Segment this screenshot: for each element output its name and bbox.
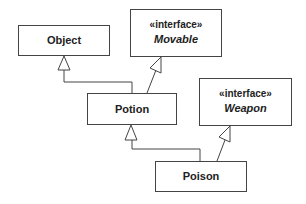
stereotype-label: «interface» xyxy=(219,88,272,100)
class-poison: Poison xyxy=(155,161,247,192)
class-potion: Potion xyxy=(87,93,177,125)
class-name: Potion xyxy=(115,103,149,116)
edge-poison-potion xyxy=(132,140,200,161)
arrowhead-potion xyxy=(125,125,137,140)
stereotype-label: «interface» xyxy=(150,19,203,31)
arrowhead-movable xyxy=(150,57,161,73)
interface-name: Movable xyxy=(154,31,198,47)
class-name: Object xyxy=(47,34,81,47)
class-object: Object xyxy=(18,25,110,56)
edge-potion-object xyxy=(64,70,132,93)
class-name: Poison xyxy=(183,170,220,183)
interface-name: Weapon xyxy=(224,100,267,116)
interface-weapon: «interface» Weapon xyxy=(199,78,292,126)
edge-potion-movable xyxy=(147,70,156,93)
arrowhead-weapon xyxy=(219,126,230,142)
edge-poison-weapon xyxy=(217,140,225,161)
arrowhead-object xyxy=(58,56,70,70)
interface-movable: «interface» Movable xyxy=(130,9,222,57)
